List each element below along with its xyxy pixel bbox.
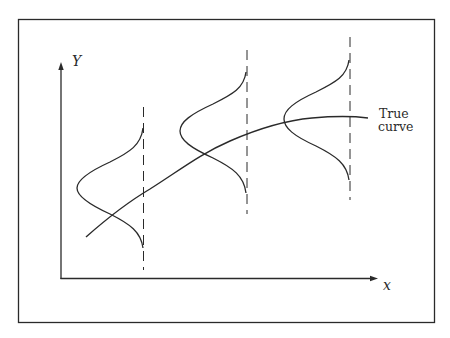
true-curve — [86, 117, 368, 238]
y-axis-arrow-icon — [58, 62, 63, 70]
regression-diagram: Y x True curve — [0, 0, 450, 338]
distribution-curve-2 — [180, 72, 246, 193]
y-axis-label: Y — [72, 53, 83, 69]
true-curve-label-line2: curve — [378, 119, 414, 134]
x-axis-arrow-icon — [370, 276, 378, 281]
x-axis-label: x — [383, 277, 391, 293]
distribution-curve-1 — [77, 128, 143, 248]
